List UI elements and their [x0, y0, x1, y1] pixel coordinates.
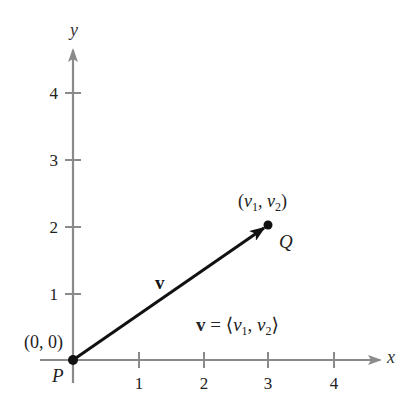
x-tick-label-4: 4 — [330, 374, 339, 393]
point-p-coords: (0, 0) — [24, 332, 63, 353]
vector-label: v — [155, 272, 165, 293]
x-tick-label-2: 2 — [200, 374, 209, 393]
y-tick-label-4: 4 — [50, 84, 59, 103]
point-q-label: Q — [279, 231, 293, 252]
y-axis: 1 2 3 4 y — [50, 20, 82, 383]
x-tick-label-3: 3 — [264, 374, 273, 393]
point-p-dot — [68, 355, 78, 365]
point-p-label: P — [51, 365, 64, 386]
point-q-dot — [264, 221, 273, 230]
x-axis: 1 2 3 4 x — [40, 347, 395, 393]
y-axis-label: y — [68, 20, 78, 40]
y-tick-label-3: 3 — [50, 151, 59, 170]
x-axis-label: x — [386, 347, 395, 367]
y-tick-label-1: 1 — [50, 285, 59, 304]
point-q: Q (v1, v2) — [238, 191, 293, 252]
component-form-label: v = ⟨v1, v2⟩ — [196, 314, 279, 338]
vector-v: v — [73, 228, 264, 360]
vector-diagram: 1 2 3 4 x 1 2 3 4 y v (0, 0) P Q (v1, v2… — [0, 0, 420, 415]
point-q-coords: (v1, v2) — [238, 191, 287, 214]
y-tick-label-2: 2 — [50, 218, 59, 237]
x-tick-label-1: 1 — [135, 374, 144, 393]
vector-arrow — [73, 228, 264, 360]
